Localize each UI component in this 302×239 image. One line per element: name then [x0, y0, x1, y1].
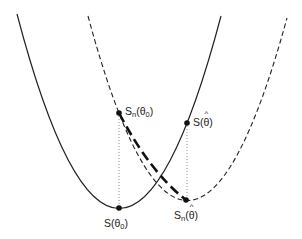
thick-dashed-segment [119, 113, 186, 200]
point-sn-theta0 [116, 110, 122, 116]
label-sn-theta0: Sn(θ0) [125, 106, 153, 119]
point-s-theta0 [116, 205, 122, 211]
label-sn-thetahat: Sn(θ) [174, 210, 198, 223]
curves-svg [0, 0, 302, 239]
label-s-thetahat: S(θ) [193, 117, 213, 128]
label-s-theta0: S(θ0) [104, 218, 128, 231]
point-sn-thetahat [183, 197, 189, 203]
dashed-curve-sn [88, 16, 287, 201]
diagram-canvas: Sn(θ0) S(θ) S(θ0) Sn(θ) [0, 0, 302, 239]
point-s-thetahat [184, 120, 190, 126]
